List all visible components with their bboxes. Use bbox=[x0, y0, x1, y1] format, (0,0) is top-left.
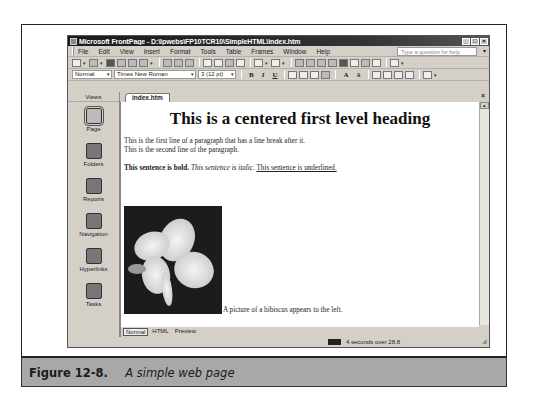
chevron-down-icon: ▾ bbox=[231, 71, 234, 78]
resize-grip-icon[interactable]: ◢ bbox=[482, 336, 487, 346]
justify-icon[interactable] bbox=[321, 71, 330, 79]
chevron-down-icon[interactable]: ▾ bbox=[265, 60, 268, 66]
views-bar: Views Page Folders Reports Navigation Hy… bbox=[68, 92, 120, 337]
app-icon bbox=[70, 38, 77, 45]
menu-edit[interactable]: Edit bbox=[98, 48, 109, 55]
toolbar-separator bbox=[368, 70, 369, 79]
status-bar: 4 seconds over 28.8 ◢ bbox=[68, 337, 489, 347]
tasks-icon bbox=[86, 283, 102, 299]
web-component-icon[interactable] bbox=[295, 59, 304, 67]
refresh-icon[interactable] bbox=[350, 59, 359, 67]
help-icon[interactable] bbox=[390, 59, 399, 67]
menu-bar: File Edit View Insert Format Tools Table… bbox=[68, 46, 489, 57]
open-icon[interactable] bbox=[89, 59, 98, 67]
decrease-indent-icon[interactable] bbox=[394, 71, 403, 79]
view-hyperlinks[interactable]: Hyperlinks bbox=[68, 242, 119, 277]
increase-indent-icon[interactable] bbox=[405, 71, 414, 79]
figure-caption-text: A simple web page bbox=[125, 366, 234, 380]
menu-insert[interactable]: Insert bbox=[144, 48, 160, 55]
insert-table-icon[interactable] bbox=[306, 59, 315, 67]
chevron-down-icon[interactable]: ▾ bbox=[282, 60, 285, 66]
status-indicator bbox=[328, 339, 341, 345]
menu-window[interactable]: Window bbox=[283, 48, 306, 55]
help-dropdown-icon[interactable]: ▾ bbox=[483, 47, 486, 54]
font-select[interactable]: Times New Roman▾ bbox=[114, 70, 196, 79]
italic-sentence: This sentence is italic. bbox=[191, 164, 255, 172]
align-right-icon[interactable] bbox=[310, 71, 319, 79]
view-reports[interactable]: Reports bbox=[68, 172, 119, 207]
hyperlink-icon[interactable] bbox=[339, 59, 348, 67]
borders-icon[interactable] bbox=[423, 71, 432, 79]
menu-help[interactable]: Help bbox=[316, 48, 329, 55]
view-page[interactable]: Page bbox=[68, 102, 119, 137]
underlined-sentence: This sentence is underlined. bbox=[256, 164, 336, 172]
tab-html[interactable]: HTML bbox=[150, 328, 170, 336]
tab-normal[interactable]: Normal bbox=[123, 328, 148, 336]
view-navigation[interactable]: Navigation bbox=[68, 207, 119, 242]
bulleted-list-icon[interactable] bbox=[383, 71, 392, 79]
image-row: A picture of a hibiscus appears to the l… bbox=[124, 206, 343, 314]
hibiscus-image[interactable] bbox=[124, 206, 222, 314]
menu-view[interactable]: View bbox=[120, 48, 134, 55]
chevron-down-icon[interactable]: ▾ bbox=[434, 72, 437, 78]
save-icon[interactable] bbox=[106, 59, 115, 67]
views-icon[interactable] bbox=[139, 59, 148, 67]
menu-tools[interactable]: Tools bbox=[201, 48, 216, 55]
close-icon[interactable]: × bbox=[481, 92, 485, 99]
view-page-label: Page bbox=[86, 126, 100, 132]
tab-preview[interactable]: Preview bbox=[173, 328, 198, 336]
tab-index-htm[interactable]: index.htm bbox=[125, 93, 170, 102]
close-button[interactable]: × bbox=[480, 38, 488, 45]
underline-button[interactable]: U bbox=[272, 71, 277, 79]
bold-button[interactable]: B bbox=[249, 71, 254, 79]
insert-picture-icon[interactable] bbox=[317, 59, 326, 67]
paragraph-marks-icon[interactable] bbox=[372, 59, 381, 67]
menu-table[interactable]: Table bbox=[226, 48, 242, 55]
publish-icon[interactable] bbox=[117, 59, 126, 67]
spelling-icon[interactable] bbox=[185, 59, 194, 67]
align-left-icon[interactable] bbox=[288, 71, 297, 79]
toolbar-separator bbox=[250, 58, 251, 67]
print-icon[interactable] bbox=[163, 59, 172, 67]
menu-format[interactable]: Format bbox=[170, 48, 191, 55]
align-center-icon[interactable] bbox=[299, 71, 308, 79]
redo-icon[interactable] bbox=[271, 59, 280, 67]
download-time: 4 seconds over 28.8 bbox=[346, 337, 400, 347]
style-select[interactable]: Normal▾ bbox=[72, 70, 112, 79]
new-page-icon[interactable] bbox=[72, 59, 81, 67]
font-size-select[interactable]: 3 (12 pt)▾ bbox=[198, 70, 236, 79]
undo-icon[interactable] bbox=[254, 59, 263, 67]
folder-list-icon[interactable] bbox=[128, 59, 137, 67]
chevron-down-icon[interactable]: ▾ bbox=[150, 60, 153, 66]
chevron-down-icon[interactable]: ▾ bbox=[401, 60, 404, 66]
view-folders[interactable]: Folders bbox=[68, 137, 119, 172]
maximize-button[interactable]: □ bbox=[471, 38, 479, 45]
drawing-icon[interactable] bbox=[328, 59, 337, 67]
toolbar-separator bbox=[199, 58, 200, 67]
view-hyperlinks-label: Hyperlinks bbox=[79, 266, 107, 272]
font-size-value: 3 (12 pt) bbox=[201, 71, 223, 77]
help-search-input[interactable]: Type a question for help bbox=[397, 47, 477, 56]
stop-icon[interactable] bbox=[361, 59, 370, 67]
italic-button[interactable]: I bbox=[262, 71, 265, 79]
menu-frames[interactable]: Frames bbox=[251, 48, 273, 55]
minimize-button[interactable]: _ bbox=[462, 38, 470, 45]
scroll-up-icon[interactable]: ▴ bbox=[480, 102, 489, 109]
chevron-down-icon[interactable]: ▾ bbox=[100, 60, 103, 66]
cut-icon[interactable] bbox=[203, 59, 212, 67]
preview-icon[interactable] bbox=[174, 59, 183, 67]
menu-file[interactable]: File bbox=[78, 48, 88, 55]
paste-icon[interactable] bbox=[225, 59, 234, 67]
view-reports-label: Reports bbox=[83, 196, 104, 202]
decrease-font-icon[interactable]: A bbox=[357, 72, 361, 78]
format-painter-icon[interactable] bbox=[236, 59, 245, 67]
page-icon bbox=[86, 108, 102, 124]
figure-number: Figure 12-8. bbox=[29, 366, 108, 380]
document-canvas[interactable]: This is a centered first level heading T… bbox=[120, 102, 479, 327]
numbered-list-icon[interactable] bbox=[372, 71, 381, 79]
increase-font-icon[interactable]: A bbox=[343, 71, 348, 79]
copy-icon[interactable] bbox=[214, 59, 223, 67]
view-tasks[interactable]: Tasks bbox=[68, 277, 119, 312]
chevron-down-icon[interactable]: ▾ bbox=[83, 60, 86, 66]
vertical-scrollbar[interactable]: ▴ bbox=[479, 102, 489, 325]
